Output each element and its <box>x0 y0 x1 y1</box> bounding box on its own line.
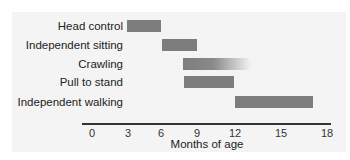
bar-independent-walking <box>235 96 313 108</box>
bar-independent-sitting <box>162 39 197 51</box>
x-tick-18: 18 <box>321 127 333 139</box>
row-label-pull-to-stand: Pull to stand <box>60 76 123 88</box>
x-axis-line <box>82 123 331 125</box>
x-tick-0: 0 <box>89 127 95 139</box>
x-axis-title: Months of age <box>171 138 244 150</box>
row-label-head-control: Head control <box>58 20 123 32</box>
x-tick-15: 15 <box>275 127 287 139</box>
bar-crawling <box>183 58 251 70</box>
row-label-independent-sitting: Independent sitting <box>26 39 123 51</box>
x-tick-6: 6 <box>158 127 164 139</box>
row-label-crawling: Crawling <box>78 58 123 70</box>
row-label-independent-walking: Independent walking <box>18 96 124 108</box>
bar-pull-to-stand <box>184 76 234 88</box>
x-tick-3: 3 <box>125 127 131 139</box>
bar-head-control <box>127 20 161 32</box>
